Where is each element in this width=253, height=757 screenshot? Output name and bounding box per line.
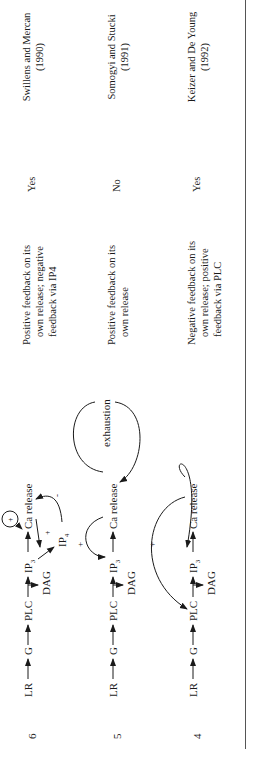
svg-text:-: - bbox=[52, 494, 62, 497]
oscillation-value: Yes bbox=[26, 177, 37, 192]
node-ip3: IP3 bbox=[187, 559, 202, 573]
svg-text:Ca release: Ca release bbox=[107, 483, 119, 529]
oscillation-value: No bbox=[111, 179, 122, 192]
description-cell: Negative feedback on its own release; po… bbox=[185, 235, 224, 345]
svg-text:IP3: IP3 bbox=[22, 559, 37, 573]
svg-text:DAG: DAG bbox=[125, 571, 137, 595]
label-exhaustion: exhaustion bbox=[100, 399, 112, 447]
node-g: G bbox=[187, 647, 199, 655]
signaling-pathway-diagram: LR G PLC DAG IP3 Ca release + + IP4 - bbox=[0, 377, 100, 697]
svg-text:PLC: PLC bbox=[22, 601, 34, 621]
node-plc: PLC bbox=[187, 601, 199, 621]
reference-cell: Somogyi and Stucki (1991) bbox=[105, 2, 131, 112]
rotated-table-page: 4 LR G PLC DAG IP3 Ca release + Negative… bbox=[0, 0, 253, 757]
svg-text:DAG: DAG bbox=[40, 571, 52, 595]
table-bottom-rule bbox=[245, 0, 246, 749]
reference-cell: Keizer and De Young (1992) bbox=[185, 2, 211, 112]
svg-text:G: G bbox=[107, 647, 119, 655]
row-number: 5 bbox=[111, 734, 123, 740]
description-cell: Positive feedback on its own release bbox=[105, 235, 131, 345]
svg-text:+: + bbox=[6, 517, 15, 522]
svg-text:+: + bbox=[43, 530, 52, 535]
svg-text:Ca release: Ca release bbox=[22, 483, 34, 529]
svg-text:LR: LR bbox=[22, 682, 34, 697]
table-row: 6 LR G PLC DAG IP3 Ca release + + IP4 - … bbox=[20, 0, 100, 757]
row-number: 4 bbox=[191, 734, 203, 740]
table-row: 4 LR G PLC DAG IP3 Ca release + Negative… bbox=[185, 0, 253, 757]
svg-text:LR: LR bbox=[107, 682, 119, 697]
node-ca-release: Ca release bbox=[187, 483, 199, 529]
node-lr: LR bbox=[187, 682, 199, 697]
node-dag: DAG bbox=[205, 571, 217, 595]
table-row: 5 LR G PLC DAG IP3 Ca release + exhausti… bbox=[105, 0, 185, 757]
svg-text:G: G bbox=[22, 647, 34, 655]
svg-text:PLC: PLC bbox=[107, 601, 119, 621]
svg-text:IP3: IP3 bbox=[107, 559, 122, 573]
description-cell: Positive feedback on its own release; ne… bbox=[20, 235, 59, 345]
oscillation-value: Yes bbox=[191, 177, 202, 192]
reference-cell: Swillens and Mercan (1990) bbox=[20, 2, 46, 112]
row-number: 6 bbox=[26, 734, 38, 740]
node-ip4: IP4 bbox=[56, 533, 71, 547]
